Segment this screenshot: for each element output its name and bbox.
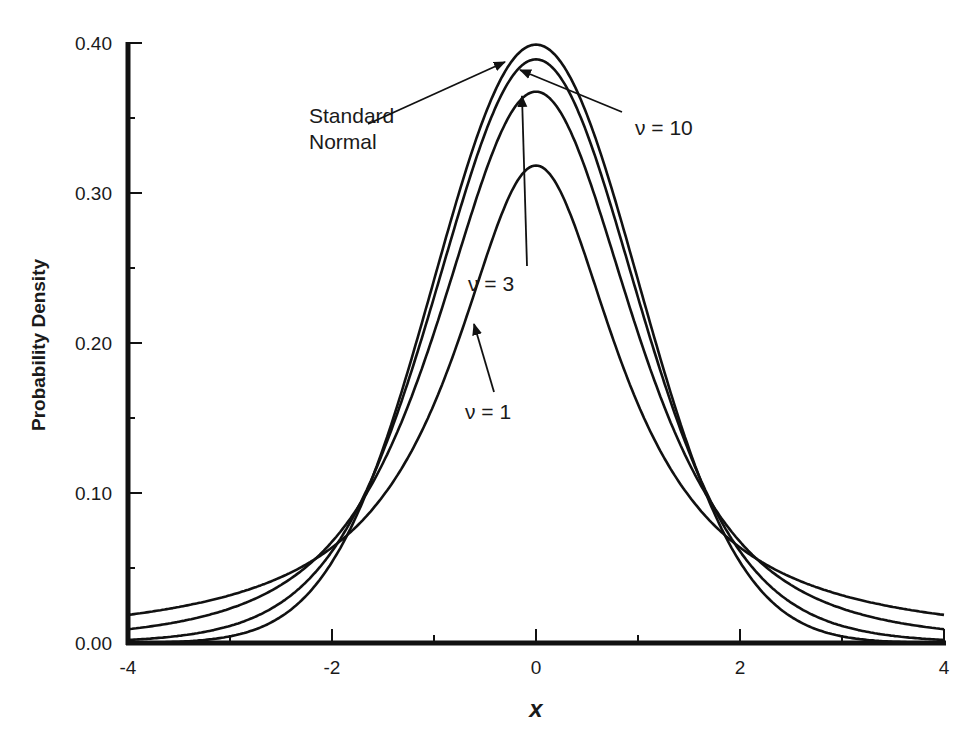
y-tick-label: 0.20	[75, 333, 112, 354]
curve-standard-normal	[128, 45, 944, 643]
x-tick-label: 0	[531, 657, 542, 678]
y-ticks: 0.000.100.200.300.40	[75, 33, 142, 654]
t-distribution-chart: 0.000.100.200.300.40 -4-2024 Probability…	[0, 0, 974, 749]
y-axis-title: Probability Density	[28, 259, 49, 432]
annotation-standard-normal-line2: Normal	[309, 130, 377, 153]
arrow-nu-1-icon	[474, 324, 494, 392]
x-tick-label: -4	[120, 657, 137, 678]
density-curves	[128, 45, 944, 643]
curve-10	[128, 59, 944, 640]
y-tick-label: 0.40	[75, 33, 112, 54]
y-tick-label: 0.10	[75, 483, 112, 504]
x-ticks: -4-2024	[120, 629, 950, 678]
curve-3	[128, 92, 944, 630]
y-tick-label: 0.00	[75, 633, 112, 654]
annotation-nu-1: ν = 1	[465, 400, 511, 423]
annotation-standard-normal-line1: Standard	[309, 104, 394, 127]
x-axis-title: x	[527, 695, 544, 722]
curve-1	[128, 166, 944, 615]
x-tick-label: 2	[735, 657, 746, 678]
arrow-nu-3-icon	[522, 96, 527, 266]
x-tick-label: 4	[939, 657, 950, 678]
annotation-nu-10: ν = 10	[635, 116, 693, 139]
annotation-nu-3: ν = 3	[468, 272, 514, 295]
y-tick-label: 0.30	[75, 183, 112, 204]
x-tick-label: -2	[324, 657, 341, 678]
